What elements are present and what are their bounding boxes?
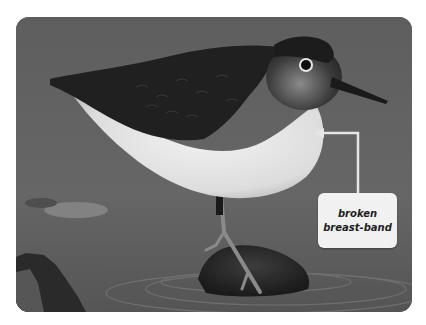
distant-pebble-shadow (25, 198, 57, 208)
photo-illustration (16, 17, 412, 312)
annotation-label-line1: broken (338, 207, 377, 221)
annotation-label-line2: breast-band (323, 221, 392, 235)
bird-photo (16, 17, 412, 312)
annotation-label: broken breast-band (318, 193, 397, 248)
bird-eye (301, 60, 311, 70)
